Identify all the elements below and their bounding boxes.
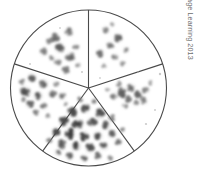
stray-speck xyxy=(29,63,31,65)
bacterial-colony xyxy=(101,63,107,69)
bacterial-colony xyxy=(119,127,125,133)
bacterial-colony xyxy=(58,92,66,100)
bacterial-colony xyxy=(113,33,123,43)
stray-speck xyxy=(59,27,61,29)
bacterial-colony xyxy=(66,106,77,117)
bacterial-colony xyxy=(93,131,103,141)
stray-speck xyxy=(81,71,83,73)
copyright-notice: © Cengage Learning 2013 xyxy=(184,0,196,68)
petri-dish-figure: © Cengage Learning 2013 xyxy=(0,0,197,178)
stray-speck xyxy=(137,71,139,73)
bacterial-colony xyxy=(33,91,43,101)
bacterial-colony xyxy=(102,26,110,34)
stray-speck xyxy=(159,73,161,75)
bacterial-colony xyxy=(71,141,82,152)
bacterial-colony xyxy=(126,83,135,92)
bacterial-colony xyxy=(55,43,66,54)
bacterial-colony xyxy=(133,100,140,107)
petri-dish-illustration xyxy=(0,0,197,178)
bacterial-colony xyxy=(63,101,69,107)
bacterial-colony xyxy=(114,138,122,146)
bacterial-colony xyxy=(75,62,81,68)
bacterial-colony xyxy=(49,55,55,61)
bacterial-colony xyxy=(66,152,75,161)
bacterial-colony xyxy=(123,47,130,54)
stray-speck xyxy=(145,123,147,125)
bacterial-colony xyxy=(27,73,37,83)
bacterial-colony xyxy=(107,129,116,138)
bacterial-colony xyxy=(80,154,88,162)
bacterial-colony xyxy=(51,127,61,137)
bacterial-colony xyxy=(91,98,97,104)
stray-speck xyxy=(154,109,156,111)
bacterial-colony xyxy=(54,148,61,155)
stray-speck xyxy=(99,77,101,79)
bacterial-colony xyxy=(85,143,95,153)
bacterial-colony xyxy=(124,95,133,104)
